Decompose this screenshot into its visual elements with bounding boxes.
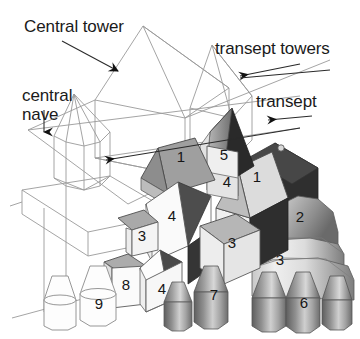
block-number-block-3-left: 3 (138, 227, 146, 244)
block-number-turret-6: 6 (300, 294, 308, 311)
block-number-turret-7: 7 (210, 286, 218, 303)
wire-nave-block-left (22, 190, 88, 256)
block-number-block-4-low: 4 (158, 280, 166, 297)
wire-central-tower-ridge-a (143, 26, 185, 118)
right-wing-finial (278, 145, 284, 151)
label-central-nave-line2: nave (22, 105, 58, 124)
block-number-roof-1-right: 1 (253, 168, 261, 185)
label-central-nave: central nave (22, 86, 112, 124)
turret-small-b-body (252, 298, 286, 332)
figure-canvas: 1 5 4 1 4 3 2 3 3 8 4 9 7 6 Central towe… (0, 0, 360, 339)
block-number-roof-1-left: 1 (177, 148, 185, 165)
label-central-tower: Central tower (24, 17, 124, 36)
leader-transept-towers (240, 64, 300, 76)
leader-transept (268, 116, 312, 120)
turret-left-outline-rim (44, 295, 76, 305)
label-central-nave-line1: central (22, 86, 72, 105)
block-number-tower-4-upper: 4 (223, 173, 231, 190)
wire-nave-turret-base (54, 176, 110, 190)
leader-central-tower (62, 41, 118, 71)
label-transept-towers: transept towers (215, 39, 330, 58)
massing-outline-turrets (44, 266, 116, 330)
block-number-block-8: 8 (122, 276, 130, 293)
block-number-apse-2: 2 (296, 208, 304, 225)
wire-ground-line-left (10, 202, 22, 206)
block-number-gable-4: 4 (168, 207, 176, 224)
block-number-tower-5: 5 (220, 146, 228, 163)
turret-small-a-body (164, 302, 192, 331)
block-3-left-face (126, 228, 132, 256)
block-number-block-3-center: 3 (228, 234, 236, 251)
block-number-turret-9: 9 (95, 295, 103, 312)
block-number-apse-3: 3 (276, 251, 284, 268)
label-transept: transept (256, 92, 317, 111)
leader-transept-towers-long (240, 70, 330, 78)
turret-right-body (322, 300, 352, 330)
